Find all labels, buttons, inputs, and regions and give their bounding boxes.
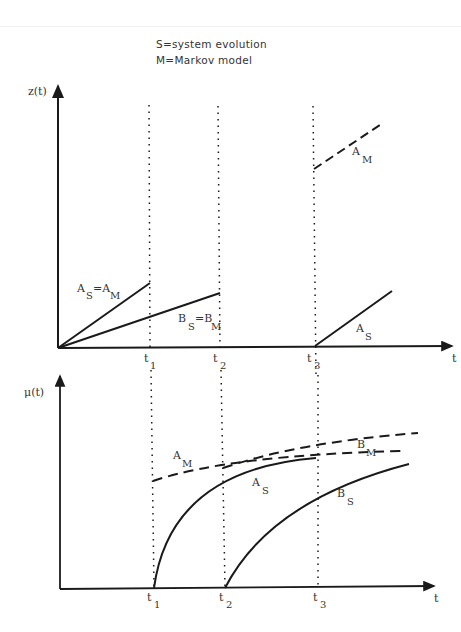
svg-text:S: S	[262, 485, 269, 496]
diagram-canvas: z(t) t t 1 t 2 t 3 A S =A M	[0, 0, 461, 632]
top-t3-marker	[313, 106, 316, 375]
top-tick-t3: t 3	[307, 352, 320, 371]
svg-text:3: 3	[314, 360, 320, 371]
svg-text:t: t	[313, 591, 318, 604]
svg-text:1: 1	[150, 360, 156, 371]
bottom-t1-marker	[151, 370, 154, 588]
svg-text:S: S	[188, 321, 195, 332]
bottom-y-axis-label: μ(t)	[24, 386, 44, 399]
svg-text:B: B	[357, 438, 365, 451]
svg-text:t: t	[219, 591, 224, 604]
svg-text:M: M	[211, 321, 221, 332]
top-tick-t1: t 1	[144, 352, 156, 371]
svg-text:2: 2	[226, 599, 232, 610]
svg-text:A: A	[351, 145, 361, 158]
svg-text:M: M	[110, 290, 120, 301]
top-x-axis-label: t	[452, 352, 457, 365]
top-t2-marker	[218, 106, 220, 350]
svg-text:S: S	[86, 290, 93, 301]
top-tick-t2: t 2	[213, 352, 226, 371]
top-curve-as-after-t3	[315, 291, 392, 346]
bottom-tick-t2: t 2	[219, 591, 232, 610]
svg-text:t: t	[213, 352, 218, 365]
bottom-label-as: A S	[251, 476, 269, 496]
top-t1-marker	[149, 105, 150, 350]
svg-text:t: t	[144, 352, 149, 365]
bottom-t2-marker	[221, 370, 225, 588]
svg-text:S: S	[365, 331, 372, 342]
svg-text:3: 3	[320, 599, 326, 610]
bottom-tick-t3: t 3	[313, 591, 326, 610]
svg-text:A: A	[172, 449, 182, 462]
top-x-axis	[58, 346, 452, 348]
bottom-label-bs: B S	[337, 487, 354, 507]
bottom-label-bm: B M	[357, 438, 376, 458]
bottom-tick-t1: t 1	[147, 591, 160, 610]
bottom-curve-as	[154, 458, 316, 588]
svg-text:t: t	[307, 352, 312, 365]
svg-text:M: M	[362, 154, 372, 165]
svg-text:1: 1	[154, 599, 160, 610]
bottom-label-am: A M	[172, 449, 192, 469]
svg-text:A: A	[251, 476, 261, 489]
svg-text:=A: =A	[93, 282, 111, 295]
bottom-x-axis-label: t	[434, 592, 439, 605]
top-label-as: A S	[355, 322, 372, 342]
svg-text:2: 2	[220, 360, 226, 371]
top-panel: z(t) t t 1 t 2 t 3 A S =A M	[28, 85, 457, 375]
bottom-curve-bm	[223, 433, 418, 468]
svg-text:B: B	[178, 312, 186, 325]
top-y-axis-label: z(t)	[28, 85, 47, 98]
svg-text:M: M	[366, 447, 376, 458]
svg-text:S: S	[347, 496, 354, 507]
bottom-x-axis	[60, 586, 434, 589]
bottom-panel: μ(t) t t 1 t 2 t 3 A M A S	[24, 370, 439, 610]
top-label-bs-eq-bm: B S =B M	[178, 312, 221, 332]
svg-text:B: B	[337, 487, 345, 500]
top-label-am: A M	[351, 145, 372, 165]
svg-text:A: A	[76, 282, 86, 295]
svg-text:A: A	[355, 322, 365, 335]
svg-text:M: M	[182, 458, 192, 469]
top-label-as-eq-am: A S =A M	[76, 282, 120, 301]
svg-text:=B: =B	[195, 312, 212, 325]
svg-text:t: t	[147, 591, 152, 604]
